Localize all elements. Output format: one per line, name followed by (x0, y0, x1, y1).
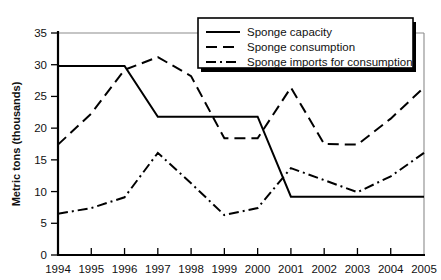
x-axis: 1994199519961997199819992000200120022003… (45, 248, 437, 275)
series-line-sponge-capacity (58, 66, 424, 197)
x-tick-label: 2004 (378, 263, 404, 275)
y-axis-title: Metric tons (thousands) (10, 81, 22, 206)
y-tick-label: 25 (34, 90, 47, 102)
x-tick-label: 2005 (411, 263, 437, 275)
legend-label: Sponge consumption (247, 41, 355, 53)
y-tick-label: 15 (34, 154, 47, 166)
x-tick-label: 1999 (212, 263, 238, 275)
x-tick-label: 2002 (311, 263, 337, 275)
x-tick-label: 1997 (145, 263, 171, 275)
data-series-group (58, 57, 424, 215)
legend: Sponge capacitySponge consumptionSponge … (198, 18, 416, 72)
x-tick-label: 2001 (278, 263, 304, 275)
y-tick-label: 5 (41, 217, 47, 229)
x-tick-label: 2003 (345, 263, 371, 275)
x-tick-label: 1995 (78, 263, 104, 275)
y-axis: 05101520253035 (34, 27, 58, 261)
legend-label: Sponge capacity (247, 26, 332, 38)
y-tick-label: 10 (34, 186, 47, 198)
x-tick-label: 1994 (45, 263, 71, 275)
line-chart: 05101520253035 1994199519961997199819992… (0, 0, 441, 280)
x-tick-label: 2000 (245, 263, 271, 275)
chart-container: 05101520253035 1994199519961997199819992… (0, 0, 441, 280)
y-tick-label: 0 (41, 249, 47, 261)
x-tick-label: 1996 (112, 263, 138, 275)
x-tick-label: 1998 (178, 263, 204, 275)
y-tick-label: 20 (34, 122, 47, 134)
legend-label: Sponge imports for consumption (247, 56, 413, 68)
y-tick-label: 30 (34, 59, 47, 71)
y-tick-label: 35 (34, 27, 47, 39)
series-line-sponge-imports-for-consumption (58, 153, 424, 215)
